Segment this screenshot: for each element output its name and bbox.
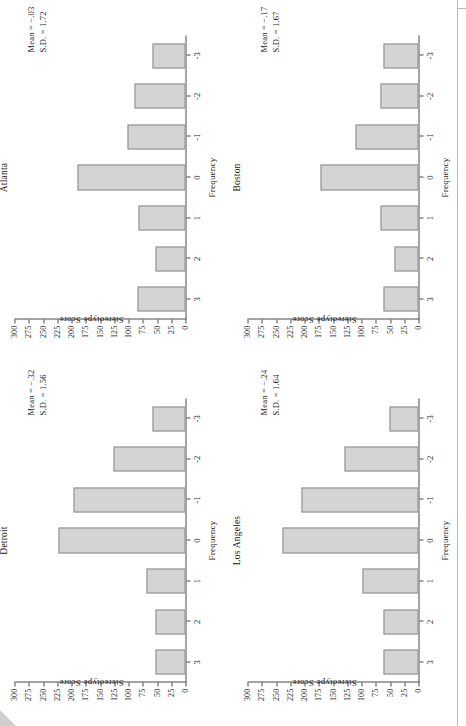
score-tick-label: -2 (192, 455, 201, 462)
sd-value: S.D. = 1.56 (36, 369, 48, 415)
frequency-tick-label: 200 (67, 688, 75, 701)
bar-series (14, 398, 185, 682)
score-tick (419, 620, 423, 621)
score-tick-label: 3 (192, 659, 201, 663)
score-tick (186, 135, 190, 136)
histogram-bar (380, 205, 418, 230)
frequency-tick-label: 275 (24, 688, 32, 701)
score-tick (186, 661, 190, 662)
score-tick-label: -3 (192, 52, 201, 59)
bar-series (14, 35, 185, 319)
histogram-panel-los-angeles: Los Angeles 0255075100125150175200225250… (233, 363, 466, 726)
score-tick-label: -3 (425, 415, 434, 422)
bar-slot (14, 601, 185, 642)
histogram-panel-detroit: Detroit 02550751001251501752002252502753… (0, 363, 233, 726)
score-axis-title: Stereotype Score (238, 314, 410, 324)
score-tick-label: 0 (425, 538, 434, 542)
histogram-grid: Atlanta 02550751001251501752002252502753… (0, 0, 466, 726)
frequency-tick-label: 300 (10, 688, 18, 701)
frequency-tick-label: 75 (371, 688, 379, 696)
score-tick-label: 3 (425, 296, 434, 300)
frequency-tick (418, 319, 419, 323)
score-tick-label: 3 (192, 296, 201, 300)
frequency-tick-label: 150 (96, 325, 104, 338)
bar-slot (247, 560, 418, 601)
frequency-tick-label: 0 (181, 688, 189, 692)
score-tick (186, 539, 190, 540)
histogram-bar (383, 286, 418, 311)
frequency-tick-label: 125 (343, 325, 351, 338)
frequency-tick-label: 50 (153, 688, 161, 696)
frequency-tick-label: 125 (110, 325, 118, 338)
bar-slot (247, 278, 418, 319)
stats-annotation: Mean = −.03 S.D. = 1.72 (24, 6, 49, 52)
frequency-tick-label: 100 (124, 688, 132, 701)
frequency-tick-label: 225 (286, 325, 294, 338)
histogram-bar (383, 43, 418, 68)
histogram-bar (137, 286, 185, 311)
histogram-bar (344, 446, 418, 471)
score-tick (419, 217, 423, 218)
score-tick (419, 661, 423, 662)
histogram-bar (155, 246, 185, 271)
frequency-tick-label: 100 (357, 688, 365, 701)
frequency-tick-label: 275 (24, 325, 32, 338)
score-tick (419, 95, 423, 96)
frequency-axis-title: Frequency (206, 35, 216, 319)
page-corner-line (458, 8, 466, 9)
score-tick (419, 135, 423, 136)
score-tick (419, 458, 423, 459)
score-tick-label: -1 (192, 133, 201, 140)
plot-area: 02550751001251501752002252502753003210-1… (14, 35, 186, 319)
score-tick-label: -1 (425, 133, 434, 140)
frequency-tick-label: 200 (300, 688, 308, 701)
stats-annotation: Mean = −.32 S.D. = 1.56 (24, 369, 49, 415)
score-tick-label: -2 (425, 92, 434, 99)
score-axis-title: Stereotype Score (5, 314, 177, 324)
frequency-tick-label: 25 (400, 325, 408, 333)
score-tick-label: -2 (425, 455, 434, 462)
frequency-tick-label: 250 (39, 325, 47, 338)
histogram-bar (155, 649, 185, 674)
frequency-tick-label: 25 (400, 688, 408, 696)
frequency-tick-label: 50 (386, 325, 394, 333)
bar-slot (247, 439, 418, 480)
frequency-axis-title: Frequency (439, 35, 449, 319)
bar-slot (247, 197, 418, 238)
score-tick-label: 2 (425, 256, 434, 260)
bar-slot (247, 116, 418, 157)
bar-series (247, 35, 418, 319)
frequency-tick-label: 75 (138, 325, 146, 333)
frequency-tick-label: 175 (314, 325, 322, 338)
score-tick-label: 1 (192, 215, 201, 219)
stats-annotation: Mean = −.24 S.D. = 1.64 (257, 369, 282, 415)
frequency-tick-label: 175 (81, 688, 89, 701)
panel-cell-atlanta: Atlanta 02550751001251501752002252502753… (0, 0, 233, 363)
score-axis-title: Stereotype Score (238, 677, 410, 687)
score-tick-label: -1 (192, 496, 201, 503)
histogram-bar (301, 487, 418, 512)
frequency-tick-label: 25 (167, 325, 175, 333)
frequency-tick-label: 300 (10, 325, 18, 338)
plot-area: 02550751001251501752002252502753003210-1… (247, 398, 419, 682)
bar-slot (247, 76, 418, 117)
histogram-bar (58, 527, 185, 552)
score-tick-label: -3 (192, 415, 201, 422)
score-tick (419, 498, 423, 499)
histogram-bar (146, 568, 185, 593)
frequency-tick-label: 225 (53, 325, 61, 338)
frequency-tick-label: 275 (257, 325, 265, 338)
score-tick-label: 2 (192, 256, 201, 260)
bar-series (247, 398, 418, 682)
histogram-panel-atlanta: Atlanta 02550751001251501752002252502753… (0, 0, 233, 363)
frequency-tick-label: 150 (96, 688, 104, 701)
frequency-tick-label: 150 (329, 688, 337, 701)
frequency-tick-label: 175 (314, 688, 322, 701)
histogram-bar (362, 568, 418, 593)
score-tick-label: 0 (192, 538, 201, 542)
bar-slot (247, 601, 418, 642)
histogram-bar (320, 164, 418, 189)
frequency-tick-label: 0 (414, 325, 422, 329)
score-tick (419, 580, 423, 581)
panel-title: Detroit (0, 398, 8, 682)
